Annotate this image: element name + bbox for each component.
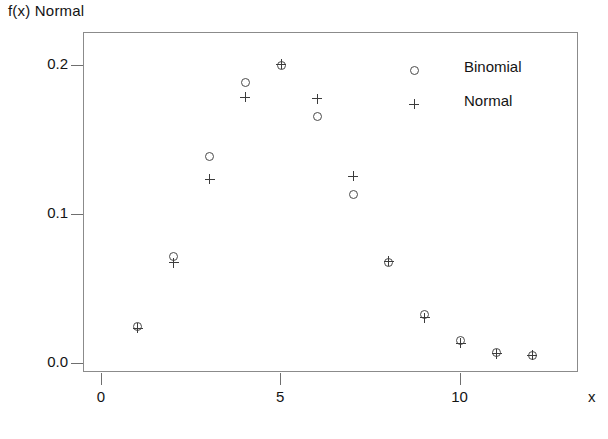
- x-axis-title: x: [588, 388, 596, 405]
- circle-legend-symbol: [408, 64, 422, 78]
- circle-marker-icon: [349, 190, 358, 199]
- legend-label: Binomial: [464, 58, 522, 75]
- x-tick-mark: [280, 373, 281, 385]
- y-axis-title: f(x) Normal: [8, 2, 84, 19]
- x-tick-label: 5: [260, 388, 300, 405]
- plus-marker-icon: [420, 313, 430, 323]
- x-tick-mark: [460, 373, 461, 385]
- y-tick-mark: [71, 214, 83, 215]
- plus-marker-icon: [169, 258, 179, 268]
- plot-frame: [83, 32, 578, 372]
- y-tick-mark: [71, 65, 83, 66]
- plus-marker-icon: [527, 350, 537, 360]
- plus-legend-symbol: [408, 98, 422, 112]
- plus-marker-icon: [384, 256, 394, 266]
- plus-marker-icon: [409, 99, 419, 109]
- y-tick-mark: [71, 363, 83, 364]
- y-tick-label: 0.2: [8, 55, 68, 72]
- circle-marker-icon: [205, 152, 214, 161]
- plus-marker-icon: [205, 174, 215, 184]
- plus-marker-icon: [276, 59, 286, 69]
- x-tick-label: 0: [81, 388, 121, 405]
- circle-marker-icon: [410, 66, 419, 75]
- plus-marker-icon: [456, 338, 466, 348]
- scatter-plot: f(x) Normal x 0.00.10.2 0510 BinomialNor…: [0, 0, 608, 439]
- plus-marker-icon: [492, 349, 502, 359]
- circle-marker-icon: [313, 112, 322, 121]
- legend-label: Normal: [464, 92, 512, 109]
- y-tick-label: 0.0: [8, 353, 68, 370]
- circle-marker-icon: [241, 78, 250, 87]
- plus-marker-icon: [133, 323, 143, 333]
- plus-marker-icon: [240, 92, 250, 102]
- plus-marker-icon: [312, 94, 322, 104]
- y-tick-label: 0.1: [8, 204, 68, 221]
- x-tick-mark: [101, 373, 102, 385]
- x-tick-label: 10: [440, 388, 480, 405]
- plus-marker-icon: [348, 171, 358, 181]
